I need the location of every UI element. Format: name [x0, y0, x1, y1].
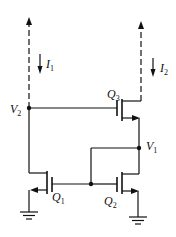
label-q2: Q2	[104, 195, 117, 210]
label-v2: V2	[10, 103, 21, 118]
node-v1-dot	[137, 146, 141, 150]
label-q1: Q1	[52, 191, 65, 206]
transistor-q3	[117, 99, 141, 148]
ground-icon	[20, 212, 38, 219]
node-gate-dot	[89, 182, 93, 186]
circuit-schematic	[0, 0, 176, 237]
circuit-diagram: I1 I2 V2 Q3 V1 Q1 Q2	[0, 0, 176, 237]
label-i2: I2	[160, 62, 168, 77]
label-i1: I1	[46, 58, 54, 73]
label-q3: Q3	[107, 88, 120, 103]
node-v2-dot	[27, 106, 31, 110]
left-supply-branch	[26, 17, 32, 108]
label-v1: V1	[146, 140, 157, 155]
current-arrow-i2	[151, 58, 156, 77]
right-supply-branch	[138, 21, 144, 101]
ground-icon	[129, 217, 147, 224]
current-arrow-i1	[38, 54, 43, 74]
